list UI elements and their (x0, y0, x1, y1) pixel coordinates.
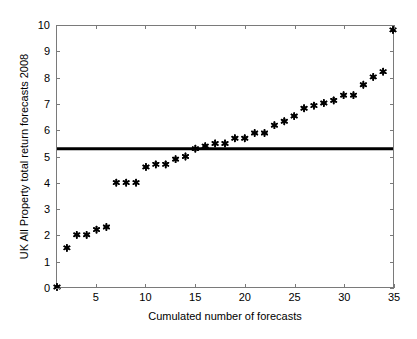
x-tick-label: 30 (324, 291, 364, 303)
x-tick-mark (394, 25, 395, 29)
data-point-marker (232, 135, 237, 141)
x-tick-label: 15 (175, 291, 215, 303)
data-point-marker (153, 161, 158, 167)
data-point-marker (331, 97, 336, 103)
x-tick-mark (245, 25, 246, 29)
y-tick-mark (56, 51, 60, 52)
y-tick-mark (56, 104, 60, 105)
data-point-marker (143, 164, 148, 170)
x-tick-mark (145, 284, 146, 288)
data-point-marker (311, 103, 316, 109)
data-point-marker (371, 74, 376, 80)
data-point-marker (74, 232, 79, 238)
y-tick-mark (56, 288, 60, 289)
data-point-marker (173, 156, 178, 162)
x-tick-label: 5 (76, 291, 116, 303)
y-tick-mark (390, 104, 394, 105)
y-tick-mark (390, 130, 394, 131)
x-tick-label: 35 (374, 291, 414, 303)
data-point-marker (262, 130, 267, 136)
data-layer (57, 26, 393, 287)
data-point-marker (292, 113, 297, 119)
x-tick-mark (96, 284, 97, 288)
data-point-marker (163, 161, 168, 167)
y-tick-mark (390, 78, 394, 79)
plot-area (56, 25, 394, 288)
data-point-marker (183, 153, 188, 159)
x-tick-mark (344, 25, 345, 29)
data-point-marker (222, 140, 227, 146)
y-tick-mark (56, 262, 60, 263)
data-point-marker (282, 118, 287, 124)
data-point-marker (380, 69, 385, 75)
x-tick-mark (96, 25, 97, 29)
y-tick-mark (390, 209, 394, 210)
x-tick-label: 20 (225, 291, 265, 303)
y-tick-mark (56, 25, 60, 26)
data-point-marker (361, 82, 366, 88)
data-point-marker (94, 227, 99, 233)
y-tick-mark (390, 235, 394, 236)
data-point-marker (242, 135, 247, 141)
data-point-marker (351, 92, 356, 98)
x-tick-mark (145, 25, 146, 29)
data-point-marker (64, 245, 69, 251)
y-tick-mark (56, 130, 60, 131)
x-tick-mark (195, 25, 196, 29)
x-tick-mark (245, 284, 246, 288)
data-point-marker (104, 224, 109, 230)
data-point-marker (84, 232, 89, 238)
y-tick-mark (390, 288, 394, 289)
data-point-marker (341, 92, 346, 98)
y-tick-mark (390, 157, 394, 158)
data-point-marker (301, 105, 306, 111)
y-tick-mark (56, 183, 60, 184)
data-point-marker (133, 180, 138, 186)
x-tick-mark (295, 284, 296, 288)
data-point-marker (212, 140, 217, 146)
x-tick-mark (295, 25, 296, 29)
y-tick-mark (390, 51, 394, 52)
x-tick-mark (394, 284, 395, 288)
data-point-marker (114, 180, 119, 186)
y-tick-mark (390, 183, 394, 184)
chart-figure: 012345678910 5101520253035 UK All Proper… (0, 0, 417, 339)
y-tick-mark (56, 209, 60, 210)
x-tick-mark (195, 284, 196, 288)
x-axis-title: Cumulated number of forecasts (56, 310, 394, 322)
x-tick-label: 10 (125, 291, 165, 303)
y-tick-mark (56, 78, 60, 79)
data-point-marker (252, 130, 257, 136)
x-tick-label: 25 (275, 291, 315, 303)
data-point-marker (272, 122, 277, 128)
y-tick-mark (56, 235, 60, 236)
data-point-marker (124, 180, 129, 186)
y-tick-mark (390, 262, 394, 263)
x-tick-mark (344, 284, 345, 288)
y-tick-mark (56, 157, 60, 158)
y-axis-title: UK All Property total return forecasts 2… (16, 25, 32, 288)
data-point-marker (321, 100, 326, 106)
